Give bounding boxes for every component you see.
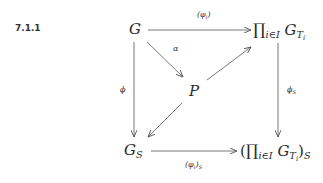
node-gs: GS: [124, 143, 143, 160]
arrow-p-to-gs: [148, 103, 182, 137]
label-top: (φi): [197, 11, 211, 20]
label-right: ϕS: [287, 86, 296, 95]
label-alpha: α: [173, 45, 178, 53]
node-product-s: (∏i∈I GTi)S: [240, 143, 311, 162]
node-product: ∏i∈I GTi: [253, 22, 305, 41]
node-p: P: [189, 84, 199, 99]
node-g: G: [129, 22, 141, 37]
label-bottom: (φi)S: [185, 161, 202, 170]
label-left: ϕ: [120, 86, 125, 94]
arrow-p-to-prod: [207, 47, 251, 80]
